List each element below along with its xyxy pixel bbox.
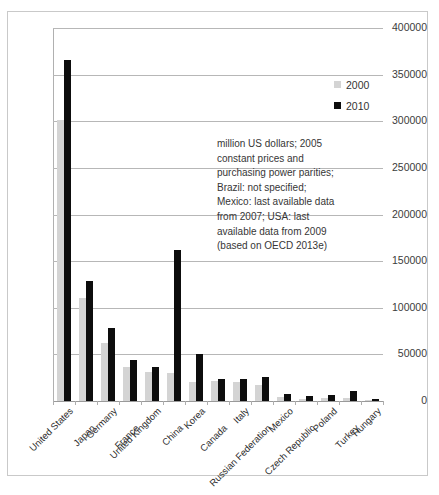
bar-2010 — [152, 367, 158, 401]
annotation-line: Brazil: not specified; — [217, 181, 367, 196]
bar-2000 — [365, 400, 371, 401]
x-axis-tick — [229, 401, 230, 405]
bar-2000 — [189, 382, 195, 401]
bar-group — [163, 28, 185, 401]
annotation-line: available data from 2009 — [217, 225, 367, 240]
bar-2010 — [196, 354, 202, 401]
y-axis-tick-label: 0 — [379, 395, 427, 406]
bar-2000 — [299, 399, 305, 401]
bar-group — [53, 28, 75, 401]
legend-item-2010[interactable]: 2010 — [334, 97, 396, 114]
legend-item-2000[interactable]: 2000 — [334, 76, 396, 93]
y-axis-tick-label: 150000 — [379, 255, 427, 266]
x-axis-tick — [317, 401, 318, 405]
x-axis-tick — [273, 401, 274, 405]
x-axis-tick — [141, 401, 142, 405]
x-axis-category-label: Turkey — [213, 423, 361, 495]
bar-2000 — [233, 382, 239, 401]
bar-2000 — [343, 398, 349, 401]
bar-2010 — [240, 379, 246, 401]
legend-label: 2000 — [346, 79, 369, 91]
chart-annotation-note: million US dollars; 2005constant prices … — [217, 137, 367, 254]
x-axis-category-label: Canada — [81, 423, 229, 495]
x-axis-category-label: France — [0, 423, 141, 495]
chart-frame: 0500001000001500002000002500003000003500… — [7, 11, 428, 476]
x-axis-category-label: Hungary — [235, 406, 383, 495]
annotation-line: constant prices and — [217, 152, 367, 167]
x-axis-category-label: Germany — [0, 406, 119, 495]
x-axis-category-label: Poland — [191, 406, 339, 495]
bar-2000 — [277, 397, 283, 401]
annotation-line: (based on OECD 2013e) — [217, 239, 367, 254]
bar-2010 — [284, 394, 290, 401]
bar-group — [185, 28, 207, 401]
bar-2000 — [123, 367, 129, 402]
bar-2000 — [167, 373, 173, 401]
annotation-line: from 2007; USA: last — [217, 210, 367, 225]
bar-2010 — [306, 396, 312, 401]
bar-2010 — [218, 379, 224, 401]
bar-2000 — [211, 381, 217, 402]
y-axis-tick-label: 50000 — [379, 348, 427, 359]
annotation-line: million US dollars; 2005 — [217, 137, 367, 152]
x-axis-tick — [361, 401, 362, 405]
bar-2010 — [372, 399, 378, 401]
bar-2010 — [262, 377, 268, 401]
x-axis-category-label: United States — [0, 406, 75, 495]
gridline — [53, 401, 383, 402]
bar-2010 — [174, 250, 180, 401]
x-axis-tick — [295, 401, 296, 405]
bar-2010 — [64, 60, 70, 401]
y-axis-tick-label: 100000 — [379, 302, 427, 313]
bar-2010 — [350, 391, 356, 401]
bar-2000 — [321, 398, 327, 401]
bar-2000 — [145, 372, 151, 401]
bar-group — [97, 28, 119, 401]
x-axis-category-label: Japan — [0, 423, 97, 495]
bar-2010 — [328, 395, 334, 401]
x-axis-category-label: Czech Republic — [169, 423, 317, 495]
bar-2010 — [108, 328, 114, 401]
x-axis-tick — [119, 401, 120, 405]
legend-swatch-2000-icon — [334, 81, 341, 88]
annotation-line: Mexico: last available data — [217, 195, 367, 210]
bar-2000 — [255, 385, 261, 401]
x-axis-tick — [75, 401, 76, 405]
x-axis-tick — [251, 401, 252, 405]
x-axis-category-label: Italy — [103, 406, 251, 495]
bar-group — [75, 28, 97, 401]
bar-2000 — [101, 343, 107, 401]
x-axis-category-label: Mexico — [147, 406, 295, 495]
bar-chart-figure: 0500001000001500002000002500003000003500… — [0, 0, 439, 495]
y-axis-tick-label: 250000 — [379, 162, 427, 173]
chart-legend: 20002010 — [334, 76, 396, 118]
x-axis-category-label: Russian Federation — [125, 423, 273, 495]
y-axis-tick-label: 200000 — [379, 209, 427, 220]
legend-label: 2010 — [346, 100, 369, 112]
y-axis-tick-label: 400000 — [379, 22, 427, 33]
bar-2000 — [79, 298, 85, 401]
x-axis-tick — [383, 401, 384, 405]
annotation-line: purchasing power parities; — [217, 166, 367, 181]
bar-group — [141, 28, 163, 401]
x-axis-category-label: Korea — [59, 406, 207, 495]
x-axis-tick — [339, 401, 340, 405]
bar-2010 — [130, 360, 136, 401]
bar-2010 — [86, 281, 92, 401]
bar-group — [119, 28, 141, 401]
x-axis-tick — [163, 401, 164, 405]
x-axis-category-label: China — [37, 423, 185, 495]
x-axis-tick — [53, 401, 54, 405]
legend-swatch-2010-icon — [334, 102, 341, 109]
x-axis-tick — [207, 401, 208, 405]
x-axis-category-label: United Kingdom — [15, 406, 163, 495]
bar-2000 — [57, 120, 63, 401]
x-axis-tick — [185, 401, 186, 405]
x-axis-tick — [97, 401, 98, 405]
